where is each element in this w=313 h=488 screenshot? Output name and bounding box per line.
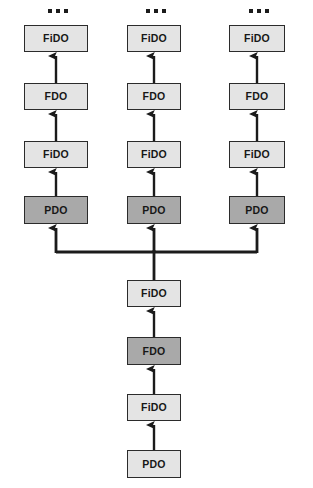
- node-middle-fido-top[interactable]: FiDO: [127, 25, 181, 52]
- node-right-fido-top[interactable]: FiDO: [229, 25, 285, 52]
- ellipsis-right: [249, 9, 269, 13]
- ellipsis-dot: [48, 9, 52, 13]
- node-right-fido-lower[interactable]: FiDO: [229, 141, 285, 168]
- ellipsis-dot: [257, 9, 261, 13]
- ellipsis-dot: [162, 9, 166, 13]
- ellipsis-dot: [249, 9, 253, 13]
- node-trunk-pdo[interactable]: PDO: [127, 450, 181, 478]
- ellipsis-dot: [146, 9, 150, 13]
- node-middle-fido-lower[interactable]: FiDO: [127, 141, 181, 168]
- node-left-fido-lower[interactable]: FiDO: [24, 141, 88, 168]
- ellipsis-dot: [154, 9, 158, 13]
- ellipsis-left: [48, 9, 68, 13]
- ellipsis-dot: [64, 9, 68, 13]
- node-left-fdo[interactable]: FDO: [24, 83, 88, 110]
- ellipsis-dot: [265, 9, 269, 13]
- node-trunk-fdo[interactable]: FDO: [127, 337, 181, 365]
- node-left-pdo[interactable]: PDO: [24, 196, 88, 224]
- node-middle-pdo[interactable]: PDO: [127, 196, 181, 224]
- ellipsis-dot: [56, 9, 60, 13]
- ellipsis-middle: [146, 9, 166, 13]
- node-left-fido-top[interactable]: FiDO: [24, 25, 88, 52]
- node-middle-fdo[interactable]: FDO: [127, 83, 181, 110]
- fan-out-bus: [56, 228, 257, 280]
- node-right-pdo[interactable]: PDO: [229, 196, 285, 224]
- node-right-fdo[interactable]: FDO: [229, 83, 285, 110]
- diagram-canvas: FiDO FDO FiDO PDO FiDO FDO FiDO PDO FiDO…: [0, 0, 313, 488]
- node-trunk-fido-top[interactable]: FiDO: [127, 280, 181, 307]
- node-trunk-fido-lower[interactable]: FiDO: [127, 394, 181, 421]
